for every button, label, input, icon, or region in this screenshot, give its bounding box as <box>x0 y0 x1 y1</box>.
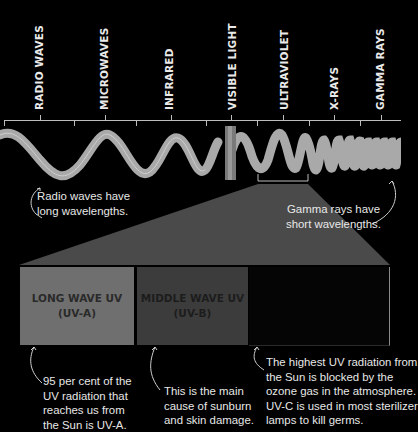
uv-b-title: MIDDLE WAVE UV <box>141 291 244 306</box>
uv-b-box: MIDDLE WAVE UV (UV-B) <box>137 267 248 345</box>
note-line: cause of sunburn <box>164 399 254 414</box>
caption-radio-waves: Radio waves have long wavelengths. <box>37 189 130 218</box>
em-wave <box>0 133 401 176</box>
caption-line: Radio waves have <box>37 189 130 204</box>
uv-a-note: 95 per cent of the UV radiation that rea… <box>43 374 132 432</box>
note-line: This is the main <box>164 384 254 399</box>
caption-line: short wavelengths. <box>286 217 381 232</box>
note-line: 95 per cent of the <box>43 374 132 389</box>
note-line: the Sun is blocked by the <box>266 370 418 385</box>
note-line: the Sun is UV-A. <box>43 418 132 432</box>
note-line: The highest UV radiation from <box>266 355 418 370</box>
uv-a-box: LONG WAVE UV (UV-A) <box>20 267 134 345</box>
uv-a-subtitle: (UV-A) <box>58 306 96 321</box>
caption-gamma-rays: Gamma rays have short wavelengths. <box>286 202 381 231</box>
uv-c-note: The highest UV radiation from the Sun is… <box>266 355 418 428</box>
caption-line: Gamma rays have <box>286 202 381 217</box>
arrow-uvc <box>254 347 264 370</box>
uv-b-subtitle: (UV-B) <box>174 306 212 321</box>
uv-b-note: This is the main cause of sunburn and sk… <box>164 384 254 428</box>
uv-bracket <box>258 174 308 181</box>
note-line: and skin damage. <box>164 413 254 428</box>
note-line: reaches us from <box>43 403 132 418</box>
note-line: UV radiation that <box>43 389 132 404</box>
arrow-uvb <box>151 347 160 390</box>
caption-line: long wavelengths. <box>37 204 130 219</box>
uv-a-title: LONG WAVE UV <box>32 291 122 306</box>
note-line: ozone gas in the atmosphere. <box>266 384 418 399</box>
note-line: UV-C is used in most sterilizer <box>266 399 418 414</box>
arrow-uva <box>31 347 42 383</box>
uv-c-box <box>249 267 390 346</box>
note-line: lamps to kill germs. <box>266 413 418 428</box>
